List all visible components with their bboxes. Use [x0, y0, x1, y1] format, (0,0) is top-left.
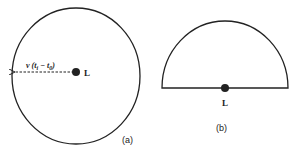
caption-a: (a) [122, 135, 133, 145]
panel-a: L v (ti − t0) (a) [12, 8, 140, 145]
panel-b: L (b) [162, 21, 288, 133]
caption-b: (b) [216, 123, 227, 133]
diagram-canvas: L v (ti − t0) (a) L (b) [0, 0, 299, 154]
point-L-dot [72, 68, 80, 76]
radius-label: v (ti − t0) [26, 61, 55, 71]
semicircle-boundary [162, 21, 288, 88]
point-label: L [222, 98, 228, 108]
point-L-dot [221, 84, 229, 92]
point-label: L [84, 68, 90, 78]
